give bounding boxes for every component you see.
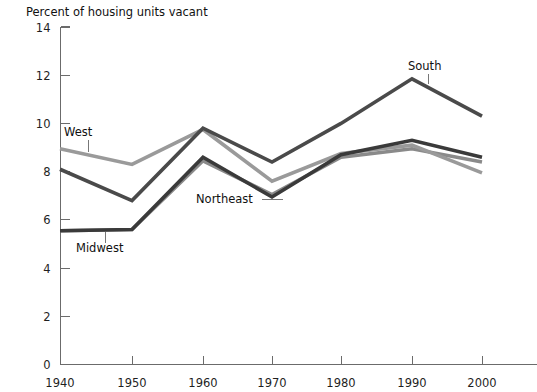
y-tick-label: 8 xyxy=(43,165,50,179)
x-axis-ticks: 1940195019601970198019902000 xyxy=(45,356,496,390)
series-line-northeast xyxy=(60,140,482,230)
y-axis-title: Percent of housing units vacant xyxy=(26,5,208,19)
x-tick-label: 1940 xyxy=(45,376,74,390)
annotation-group: WestMidwestNortheastSouth xyxy=(64,59,441,255)
series-label-south: South xyxy=(408,59,441,73)
vacancy-line-chart: Percent of housing units vacant 02468101… xyxy=(0,0,537,392)
x-tick-label: 1970 xyxy=(257,376,286,390)
series-line-west xyxy=(60,129,482,181)
y-tick-label: 10 xyxy=(36,117,51,131)
x-tick-label: 1980 xyxy=(326,376,355,390)
y-tick-label: 14 xyxy=(36,21,51,35)
y-tick-label: 4 xyxy=(43,262,50,276)
x-tick-label: 1960 xyxy=(188,376,217,390)
x-tick-label: 1990 xyxy=(397,376,426,390)
series-label-northeast: Northeast xyxy=(196,192,253,206)
chart-svg: Percent of housing units vacant 02468101… xyxy=(0,0,537,392)
y-tick-label: 0 xyxy=(43,358,50,372)
series-label-west: West xyxy=(64,125,93,139)
y-axis-ticks: 02468101214 xyxy=(36,21,70,373)
x-tick-label: 2000 xyxy=(467,376,496,390)
y-tick-label: 2 xyxy=(43,310,50,324)
x-tick-label: 1950 xyxy=(117,376,146,390)
y-tick-label: 6 xyxy=(43,213,50,227)
series-label-midwest: Midwest xyxy=(76,241,124,255)
series-group xyxy=(60,79,482,231)
y-tick-label: 12 xyxy=(36,69,51,83)
